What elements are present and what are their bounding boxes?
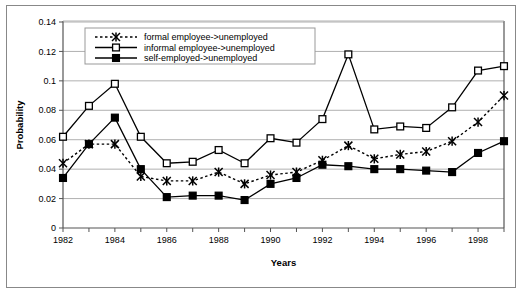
data-point xyxy=(345,51,352,58)
data-point xyxy=(215,147,222,154)
data-point xyxy=(501,63,508,70)
data-point xyxy=(137,166,144,173)
y-tick-label: 0.08 xyxy=(38,105,56,115)
data-point xyxy=(267,170,275,179)
data-point xyxy=(319,116,326,123)
data-point xyxy=(215,167,223,176)
x-tick-label: 1990 xyxy=(261,235,281,245)
data-point xyxy=(449,104,456,111)
y-tick-label: 0.1 xyxy=(43,76,56,86)
data-point xyxy=(189,192,196,199)
chart-canvas: 00.020.040.060.080.10.120.14198219841986… xyxy=(7,6,515,287)
data-point xyxy=(448,137,456,146)
legend-marker xyxy=(113,44,120,51)
y-tick-label: 0.12 xyxy=(38,47,56,57)
data-point xyxy=(319,161,326,168)
data-point xyxy=(475,150,482,157)
data-point xyxy=(474,117,482,126)
data-point xyxy=(371,126,378,133)
data-point xyxy=(163,160,170,167)
data-point xyxy=(241,179,249,188)
legend-label: formal employee->unemployed xyxy=(144,32,268,42)
data-point xyxy=(241,197,248,204)
data-point xyxy=(293,139,300,146)
data-point xyxy=(111,80,118,87)
y-tick-label: 0.02 xyxy=(38,194,56,204)
x-tick-label: 1984 xyxy=(105,235,125,245)
data-point xyxy=(137,133,144,140)
data-point xyxy=(60,133,67,140)
x-tick-label: 1998 xyxy=(468,235,488,245)
x-tick-label: 1986 xyxy=(157,235,177,245)
data-point xyxy=(189,176,197,185)
y-tick-label: 0.14 xyxy=(38,17,56,27)
data-point xyxy=(267,180,274,187)
data-point xyxy=(422,147,430,156)
legend-marker xyxy=(113,55,120,62)
series-line xyxy=(63,118,504,200)
legend-item-2[interactable]: self-employed->unemployed xyxy=(95,53,257,63)
y-axis-title: Probability xyxy=(14,100,25,150)
data-point xyxy=(60,175,67,182)
data-point xyxy=(241,160,248,167)
x-tick-label: 1992 xyxy=(312,235,332,245)
data-point xyxy=(501,138,508,145)
data-point xyxy=(475,67,482,74)
data-point xyxy=(423,167,430,174)
y-tick-label: 0.04 xyxy=(38,164,56,174)
data-point xyxy=(215,192,222,199)
y-tick-label: 0.06 xyxy=(38,135,56,145)
series-1 xyxy=(60,51,508,167)
data-point xyxy=(86,102,93,109)
data-point xyxy=(86,141,93,148)
data-point xyxy=(344,141,352,150)
x-tick-label: 1988 xyxy=(209,235,229,245)
data-point xyxy=(397,123,404,130)
data-point xyxy=(189,158,196,165)
data-point xyxy=(423,125,430,132)
data-point xyxy=(163,194,170,201)
x-tick-label: 1982 xyxy=(53,235,73,245)
data-point xyxy=(397,166,404,173)
data-point xyxy=(500,91,508,100)
x-tick-label: 1994 xyxy=(364,235,384,245)
x-tick-label: 1996 xyxy=(416,235,436,245)
data-point xyxy=(267,135,274,142)
data-point xyxy=(293,175,300,182)
y-tick-label: 0 xyxy=(51,223,56,233)
legend-label: informal employee->unemployed xyxy=(144,43,275,53)
data-point xyxy=(345,163,352,170)
legend-label: self-employed->unemployed xyxy=(144,53,257,63)
data-point xyxy=(111,114,118,121)
x-axis-title: Years xyxy=(271,257,296,268)
chart-frame: 00.020.040.060.080.10.120.14198219841986… xyxy=(6,5,516,288)
data-point xyxy=(59,159,67,168)
data-point xyxy=(449,169,456,176)
data-point xyxy=(371,166,378,173)
data-point xyxy=(163,176,171,185)
